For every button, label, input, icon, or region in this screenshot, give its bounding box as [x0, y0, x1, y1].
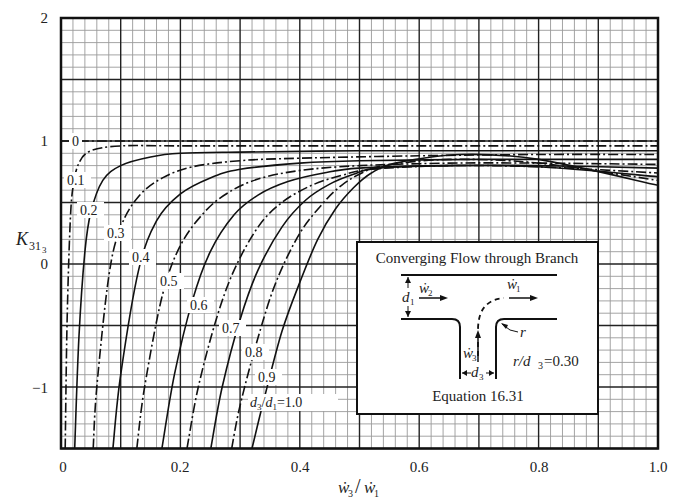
svg-text:K: K: [15, 229, 29, 249]
svg-text:1: 1: [516, 284, 521, 294]
loss-coefficient-chart: 2 1 0 −1 0 0.2 0.4 0.6 0.8 1.0 K 31 3 ẇ …: [0, 0, 682, 503]
x-tick-1.0: 1.0: [649, 459, 668, 475]
x-tick-0: 0: [59, 459, 67, 475]
x-tick-0.4: 0.4: [291, 459, 310, 475]
inset-title: Converging Flow through Branch: [376, 250, 579, 266]
svg-text:3: 3: [42, 245, 47, 255]
y-tick-neg1: −1: [32, 380, 48, 396]
x-tick-0.8: 0.8: [530, 459, 549, 475]
curve-label: 0.9: [258, 370, 276, 385]
svg-text:r: r: [520, 324, 526, 340]
curve-label: 0.2: [80, 203, 98, 218]
curve-label: 0.3: [107, 226, 125, 241]
curve-label: 0.4: [132, 250, 150, 265]
curve-label: 0.1: [67, 173, 85, 188]
y-tick-2: 2: [41, 10, 49, 26]
curve-label: 0: [72, 134, 79, 149]
svg-text:3: 3: [538, 360, 543, 371]
svg-text:2: 2: [428, 288, 433, 298]
x-axis-label: ẇ 3 / ẇ 1: [338, 475, 379, 499]
svg-text:d: d: [402, 289, 410, 305]
x-tick-0.6: 0.6: [410, 459, 429, 475]
y-tick-1: 1: [41, 133, 49, 149]
y-tick-0: 0: [41, 256, 49, 272]
svg-text:1: 1: [374, 488, 379, 499]
curve-label: 0.7: [222, 321, 240, 336]
inset-diagram: Converging Flow through Branch d 1 ẇ 2 ẇ…: [357, 242, 598, 414]
inset-equation: Equation 16.31: [432, 388, 524, 404]
x-tick-0.2: 0.2: [171, 459, 190, 475]
svg-text:r/d: r/d: [513, 353, 531, 369]
svg-text:3: 3: [348, 488, 353, 499]
svg-text:1: 1: [410, 297, 415, 307]
curve-label: 0.6: [190, 298, 208, 313]
svg-text:=0.30: =0.30: [544, 353, 579, 369]
curve-label: 0.8: [245, 345, 263, 360]
curve-label: 0.5: [160, 274, 178, 289]
svg-text:d: d: [471, 364, 479, 380]
svg-text:/: /: [355, 475, 361, 497]
svg-text:3: 3: [472, 353, 477, 363]
svg-text:31: 31: [29, 239, 41, 253]
svg-text:3: 3: [479, 372, 484, 382]
y-axis-label: K 31 3: [15, 229, 47, 255]
